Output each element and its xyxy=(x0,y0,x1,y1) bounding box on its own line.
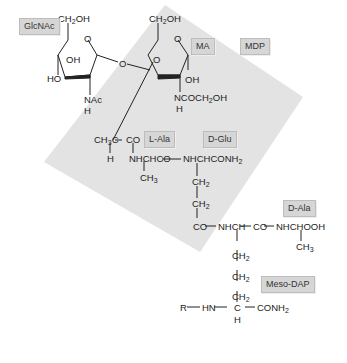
glcnac-ring-o: O xyxy=(84,33,91,44)
glcnac-oh: OH xyxy=(66,54,80,65)
glcnac-h: H xyxy=(84,105,91,116)
d-ala-nhchooh: NHCHOOH xyxy=(276,221,325,232)
glcnac-label: GlcNAc xyxy=(19,18,60,35)
dap-h: H xyxy=(234,314,241,325)
meso-dap-label: Meso-DAP xyxy=(261,276,315,293)
glcnac-ch2oh: CH2OH xyxy=(58,13,90,25)
ma-h: H xyxy=(176,103,183,114)
glycosidic-o: O xyxy=(119,58,126,69)
lactyl-co: CO xyxy=(126,134,140,145)
ma-ring-o: O xyxy=(174,33,181,44)
dap-r: R xyxy=(180,302,187,313)
d-ala-ch3: CH3 xyxy=(296,241,314,253)
dap-co: CO xyxy=(253,221,267,232)
lactyl-ch3c: CH3C xyxy=(94,134,119,146)
mdp-label: MDP xyxy=(240,38,270,55)
l-ala-nhchco: NHCHCO xyxy=(129,153,171,164)
d-glu-co: CO xyxy=(193,221,207,232)
glcnac-nac: NAc xyxy=(84,94,102,105)
dap-ch2-a: CH2 xyxy=(232,250,250,262)
ma-label: MA xyxy=(191,38,215,55)
d-glu-nhchconh2: NHCHCONH2 xyxy=(183,153,242,165)
dap-c: C xyxy=(234,302,241,313)
d-ala-label: D-Ala xyxy=(283,200,316,217)
dap-nhch: NHCH xyxy=(218,221,246,232)
dap-ch2-b: CH2 xyxy=(232,271,250,283)
ma-oh: OH xyxy=(185,74,199,85)
ma-inner-o: O xyxy=(153,54,160,65)
d-glu-label: D-Glu xyxy=(203,131,237,148)
l-ala-label: L-Ala xyxy=(144,131,175,148)
dap-conh2: CONH2 xyxy=(257,302,289,314)
lactyl-h: H xyxy=(107,153,114,164)
dap-hn: HN xyxy=(202,302,216,313)
mdp-structure-diagram: CH2OH O OH HO NAc H O CH2OH O O OH NCOCH… xyxy=(0,0,347,363)
glcnac-ho: HO xyxy=(47,73,61,84)
